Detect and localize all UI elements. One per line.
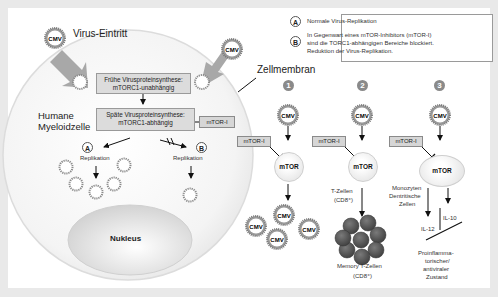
outcome-line3: antiviraler bbox=[423, 266, 449, 272]
monocytes-label-line3: Zellen bbox=[399, 201, 415, 207]
cmv-virus-panel-1: CMV bbox=[277, 104, 299, 126]
monocytes-label-line2: Dentritische bbox=[389, 193, 421, 199]
il10-label: IL-10 bbox=[443, 215, 457, 221]
outcome-line4: Zustand bbox=[426, 274, 448, 280]
mtor-inhibitor-box-cell: mTOR-I bbox=[199, 116, 235, 128]
cell-label-line2: Myeloidzelle bbox=[38, 121, 90, 132]
svg-text:CMV: CMV bbox=[433, 113, 446, 119]
early-synthesis-box: Frühe Virusproteinsynthese: mTORC1-unabh… bbox=[96, 73, 191, 94]
cmv-virus-panel-2: CMV bbox=[351, 104, 373, 126]
path-b-label: Replikation bbox=[173, 155, 203, 161]
svg-text:CMV: CMV bbox=[277, 213, 290, 219]
legend-a-text: Normale Virus-Replikation bbox=[307, 18, 377, 24]
t-cells-label-line2: (CD8⁺) bbox=[334, 196, 353, 203]
mtor-inhibitor-box-2: mTOR-I bbox=[312, 136, 346, 147]
il12-label: IL-12 bbox=[421, 226, 435, 232]
legend-b-line2: sind die TORC1-abhängigen Bereiche block… bbox=[307, 40, 434, 46]
mtor-target-2: mTOR bbox=[348, 152, 378, 182]
legend-b-line3: Reduktion der Virus-Replikation. bbox=[307, 48, 393, 54]
svg-text:CMV: CMV bbox=[225, 47, 238, 53]
svg-text:CMV: CMV bbox=[249, 224, 262, 230]
mtor-target-1: mTOR bbox=[274, 152, 304, 182]
mtor-inhibitor-box-3: mTOR-I bbox=[389, 136, 423, 147]
nucleus-label: Nukleus bbox=[110, 234, 141, 243]
svg-text:CMV: CMV bbox=[355, 113, 368, 119]
mtor-inhibitor-box-1: mTOR-I bbox=[237, 136, 271, 147]
cmv-virus-replicated: CMV bbox=[266, 228, 288, 250]
legend-b-marker: B bbox=[290, 36, 301, 47]
late-synthesis-line1: Späte Virusproteinsynthese: bbox=[97, 111, 194, 119]
cell-membrane-label: Zellmembran bbox=[257, 64, 315, 75]
monocytes-label-line1: Monozyten bbox=[392, 185, 421, 191]
path-a-label: Replikation bbox=[80, 155, 110, 161]
cell-label-line1: Humane bbox=[38, 110, 74, 121]
cmv-virus-replicated: CMV bbox=[298, 218, 320, 240]
path-b-marker: B bbox=[196, 142, 207, 153]
early-synthesis-line1: Frühe Virusproteinsynthese: bbox=[97, 76, 190, 84]
late-synthesis-line2: mTORC1-abhängig bbox=[97, 119, 194, 127]
legend-b-line1: In Gegenwart eines mTOR-Inhibitors (mTOR… bbox=[307, 32, 431, 38]
outcome-line2: torischer/ bbox=[425, 258, 450, 264]
panel-1-number: 1 bbox=[283, 80, 294, 91]
memory-t-cells-line2: (CD8⁺) bbox=[353, 272, 372, 279]
t-cells-label-line1: T-Zellen bbox=[331, 188, 353, 194]
late-synthesis-box: Späte Virusproteinsynthese: mTORC1-abhän… bbox=[96, 108, 195, 131]
legend-a-marker: A bbox=[290, 16, 301, 27]
outcome-line1: Proinflamma- bbox=[418, 250, 454, 256]
memory-t-cells-line1: Memory T-Zellen bbox=[337, 263, 382, 269]
cmv-label: CMV bbox=[48, 36, 61, 42]
svg-text:CMV: CMV bbox=[302, 227, 315, 233]
panel-3-number: 3 bbox=[434, 80, 445, 91]
cmv-virus-panel-3: CMV bbox=[429, 104, 451, 126]
mtor-target-3: mTOR bbox=[419, 155, 465, 187]
early-synthesis-line2: mTORC1-unabhängig bbox=[97, 84, 190, 92]
cmv-virus-entry-right: CMV bbox=[221, 38, 243, 60]
cmv-virus-replicated: CMV bbox=[273, 204, 295, 226]
cmv-virus-entry-left: CMV bbox=[44, 27, 66, 49]
path-a-marker: A bbox=[82, 142, 93, 153]
cmv-virus-replicated: CMV bbox=[245, 215, 267, 237]
panel-2-number: 2 bbox=[357, 80, 368, 91]
virus-entry-label: Virus-Eintritt bbox=[73, 28, 127, 39]
svg-text:CMV: CMV bbox=[270, 237, 283, 243]
svg-text:CMV: CMV bbox=[281, 113, 294, 119]
